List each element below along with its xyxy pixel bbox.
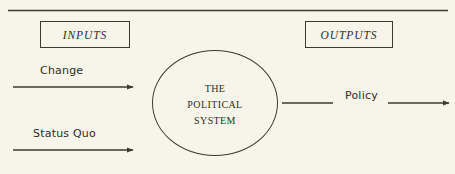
system-label-line-2: Political [187, 95, 242, 111]
political-system-circle: The Political System [152, 50, 278, 156]
status-quo-flow-label: Status Quo [33, 127, 96, 140]
system-label-line-1: The [205, 79, 226, 95]
inputs-label-box: INPUTS [40, 21, 130, 48]
policy-flow-label: Policy [345, 89, 378, 102]
change-flow-label: Change [40, 64, 83, 77]
outputs-label-box: OUTPUTS [305, 21, 393, 48]
outputs-label-text: OUTPUTS [321, 29, 378, 41]
inputs-label-text: INPUTS [63, 29, 107, 41]
political-system-diagram: INPUTS OUTPUTS The Political System Chan… [0, 0, 455, 174]
system-label-line-3: System [194, 111, 236, 127]
